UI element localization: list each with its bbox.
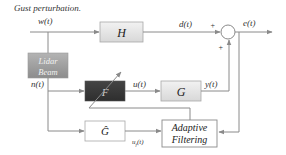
block-g: G bbox=[161, 81, 201, 101]
signal-uf-label: uf(t) bbox=[132, 138, 144, 147]
signal-y-label: y(t) bbox=[204, 79, 218, 89]
block-h-label: H bbox=[116, 26, 127, 40]
block-g-hat: Ĝ bbox=[85, 121, 125, 141]
signal-e-label: e(t) bbox=[243, 18, 256, 28]
block-adaptive-filtering: Adaptive Filtering bbox=[162, 120, 217, 147]
wire-adaptation-feedback bbox=[89, 108, 190, 120]
sum-sign-top: + bbox=[210, 21, 215, 30]
block-lidar-beam: Lidar Beam bbox=[28, 53, 68, 78]
adaptive-label-line2: Filtering bbox=[171, 134, 208, 145]
signal-u-label: u(t) bbox=[133, 79, 146, 89]
block-g-hat-label: Ĝ bbox=[101, 125, 109, 137]
sum-sign-bottom: + bbox=[218, 43, 223, 52]
block-f: F bbox=[85, 81, 125, 101]
block-g-label: G bbox=[177, 85, 186, 99]
adaptive-label-line1: Adaptive bbox=[171, 122, 208, 133]
lidar-label-line1: Lidar bbox=[38, 56, 59, 66]
lidar-label-line2: Beam bbox=[38, 67, 57, 77]
summing-junction bbox=[221, 25, 235, 39]
signal-d-label: d(t) bbox=[179, 19, 192, 29]
signal-n-label: n(t) bbox=[31, 79, 44, 89]
block-diagram: Gust perturbation. w(t) H d(t) + e(t) Li… bbox=[0, 0, 286, 155]
gust-perturbation-label: Gust perturbation. bbox=[14, 3, 81, 13]
signal-w-label: w(t) bbox=[38, 16, 53, 26]
block-h: H bbox=[100, 22, 143, 42]
